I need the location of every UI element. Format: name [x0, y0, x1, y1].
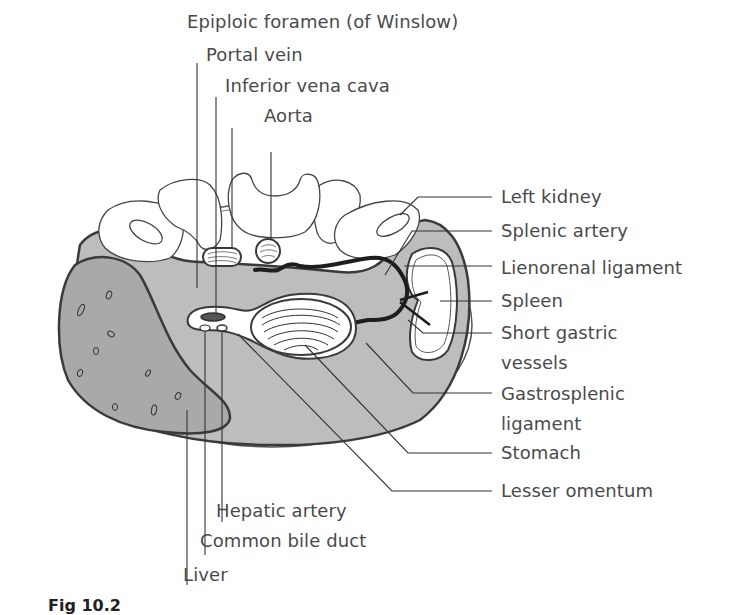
label-hepatic-artery: Hepatic artery	[216, 500, 347, 522]
label-lesser-omentum: Lesser omentum	[501, 480, 653, 502]
label-portal-vein: Portal vein	[206, 44, 303, 66]
label-splenic-artery: Splenic artery	[501, 220, 628, 242]
label-left-kidney: Left kidney	[501, 186, 602, 208]
label-gastrosplenic-ligament-line2: ligament	[501, 413, 581, 435]
label-lienorenal-ligament: Lienorenal ligament	[501, 257, 682, 279]
inferior-vena-cava	[203, 248, 241, 266]
label-stomach: Stomach	[501, 442, 581, 464]
label-common-bile-duct: Common bile duct	[200, 530, 366, 552]
label-short-gastric-vessels-line2: vessels	[501, 352, 568, 374]
label-short-gastric-vessels-line1: Short gastric	[501, 322, 618, 344]
label-gastrosplenic-ligament-line1: Gastrosplenic	[501, 383, 625, 405]
aorta	[256, 239, 280, 263]
label-liver: Liver	[183, 564, 228, 586]
label-inferior-vena-cava: Inferior vena cava	[225, 75, 390, 97]
stomach	[251, 299, 351, 355]
label-spleen: Spleen	[501, 290, 563, 312]
label-epiploic-foramen: Epiploic foramen (of Winslow)	[187, 11, 458, 33]
label-aorta: Aorta	[264, 105, 313, 127]
figure-caption: Fig 10.2	[48, 596, 121, 615]
